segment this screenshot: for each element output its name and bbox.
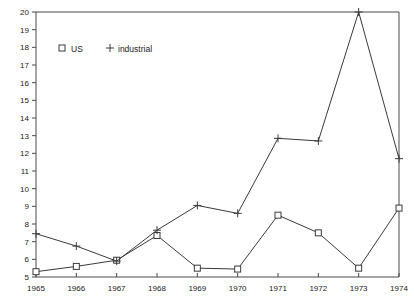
y-tick-label: 5: [25, 273, 30, 282]
x-tick-label: 1967: [108, 284, 126, 293]
y-tick-label: 17: [20, 61, 29, 70]
square-marker: [356, 265, 362, 271]
axes: [36, 12, 399, 277]
legend-label-industrial: industrial: [118, 44, 152, 54]
y-tick-label: 9: [25, 202, 30, 211]
chart-legend: USindustrial: [59, 44, 152, 54]
x-tick-label: 1969: [188, 284, 206, 293]
square-marker: [275, 212, 281, 218]
x-tick-label: 1972: [309, 284, 327, 293]
x-tick-label: 1974: [390, 284, 408, 293]
y-tick-label: 13: [20, 132, 29, 141]
square-marker: [73, 263, 79, 269]
x-tick-label: 1968: [148, 284, 166, 293]
y-tick-label: 20: [20, 8, 29, 17]
chart-canvas: 5678910111213141516171819201965196619671…: [0, 0, 414, 300]
square-marker: [235, 266, 241, 272]
series-industrial: [32, 8, 403, 265]
y-tick-label: 6: [25, 255, 30, 264]
square-marker: [194, 265, 200, 271]
y-tick-label: 10: [20, 185, 29, 194]
legend-label-us: US: [71, 44, 83, 54]
y-tick-label: 18: [20, 43, 29, 52]
square-marker: [396, 205, 402, 211]
x-tick-label: 1973: [350, 284, 368, 293]
series-us: [33, 205, 402, 275]
x-tick-label: 1970: [229, 284, 247, 293]
square-marker: [59, 45, 65, 51]
y-tick-label: 16: [20, 79, 29, 88]
square-marker: [315, 230, 321, 236]
x-axis-ticks: 1965196619671968196919701971197219731974: [27, 273, 408, 293]
x-tick-label: 1965: [27, 284, 45, 293]
series-line: [36, 12, 399, 261]
y-tick-label: 8: [25, 220, 30, 229]
x-tick-label: 1971: [269, 284, 287, 293]
y-axis-ticks: 567891011121314151617181920: [20, 8, 36, 282]
x-tick-label: 1966: [67, 284, 85, 293]
series-line: [36, 208, 399, 272]
y-tick-label: 12: [20, 149, 29, 158]
y-tick-label: 19: [20, 26, 29, 35]
y-tick-label: 11: [21, 167, 30, 176]
square-marker: [33, 269, 39, 275]
y-tick-label: 7: [25, 238, 30, 247]
y-tick-label: 14: [20, 114, 29, 123]
line-chart: 5678910111213141516171819201965196619671…: [0, 0, 414, 300]
y-tick-label: 15: [20, 96, 29, 105]
